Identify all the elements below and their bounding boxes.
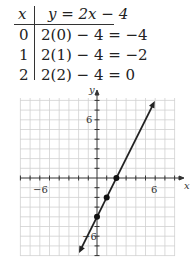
point-2-0 [113,175,119,181]
y-tick-label-6: 6 [86,114,92,125]
x-axis-label: x [184,180,190,191]
coordinate-graph: −6 6 6 −6 x y [0,0,196,270]
y-axis-label: y [88,84,95,95]
point-1-neg2 [104,194,110,200]
axes [20,90,184,256]
x-tick-label-neg6: −6 [33,184,48,195]
y-axis-arrow-icon [95,90,99,95]
x-tick-label-6: 6 [151,184,157,195]
point-0-neg4 [94,214,100,220]
